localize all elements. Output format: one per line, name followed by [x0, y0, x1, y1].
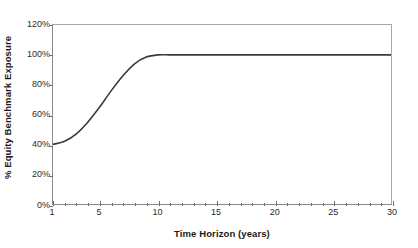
x-axis-tick-label: 20 [270, 208, 280, 217]
y-axis-tick-label: 20% [16, 170, 50, 179]
y-axis-tick-label: 0% [16, 201, 50, 210]
y-axis-tick-label: 60% [16, 110, 50, 119]
x-axis-title: Time Horizon (years) [52, 228, 392, 239]
x-axis-major-tick-mark [393, 201, 394, 206]
equity-exposure-chart: % Equity Benchmark Exposure 0%20%40%60%8… [0, 0, 418, 248]
y-axis-tick-label: 80% [16, 80, 50, 89]
x-axis-tick-labels: 151015202530 [52, 208, 392, 222]
x-axis-tick-label: 15 [211, 208, 221, 217]
x-axis-tick-label: 10 [153, 208, 163, 217]
y-axis-tick-label: 100% [16, 50, 50, 59]
x-axis-tick-label: 5 [96, 208, 101, 217]
plot-area [52, 24, 392, 205]
series-line-svg [53, 25, 391, 204]
y-axis-tick-label: 120% [16, 20, 50, 29]
series-path-equity-glide [53, 55, 391, 145]
x-axis-tick-label: 1 [49, 208, 54, 217]
x-axis-tick-label: 25 [328, 208, 338, 217]
x-axis-tick-label: 30 [387, 208, 397, 217]
y-axis-tick-labels: 0%20%40%60%80%100%120% [12, 0, 50, 248]
y-axis-tick-label: 40% [16, 140, 50, 149]
